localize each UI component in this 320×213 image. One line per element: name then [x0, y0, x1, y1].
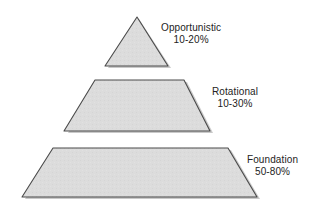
- tier-shape-foundation[interactable]: [22, 148, 257, 197]
- tier-shape-rotational[interactable]: [64, 80, 210, 131]
- tier-label-rotational: Rotational 10-30%: [212, 86, 258, 110]
- tier-label-opportunistic: Opportunistic 10-20%: [161, 22, 221, 46]
- tier-name-opportunistic: Opportunistic: [161, 22, 221, 34]
- tier-label-foundation: Foundation 50-80%: [247, 154, 298, 178]
- pyramid-shapes: [0, 0, 320, 213]
- pyramid-diagram: Opportunistic 10-20% Rotational 10-30% F…: [0, 0, 320, 213]
- tier-name-foundation: Foundation: [247, 154, 298, 166]
- tier-shape-opportunistic[interactable]: [105, 17, 168, 66]
- tier-value-opportunistic: 10-20%: [161, 34, 221, 46]
- tier-value-rotational: 10-30%: [212, 98, 258, 110]
- tier-value-foundation: 50-80%: [247, 166, 298, 178]
- tier-name-rotational: Rotational: [212, 86, 258, 98]
